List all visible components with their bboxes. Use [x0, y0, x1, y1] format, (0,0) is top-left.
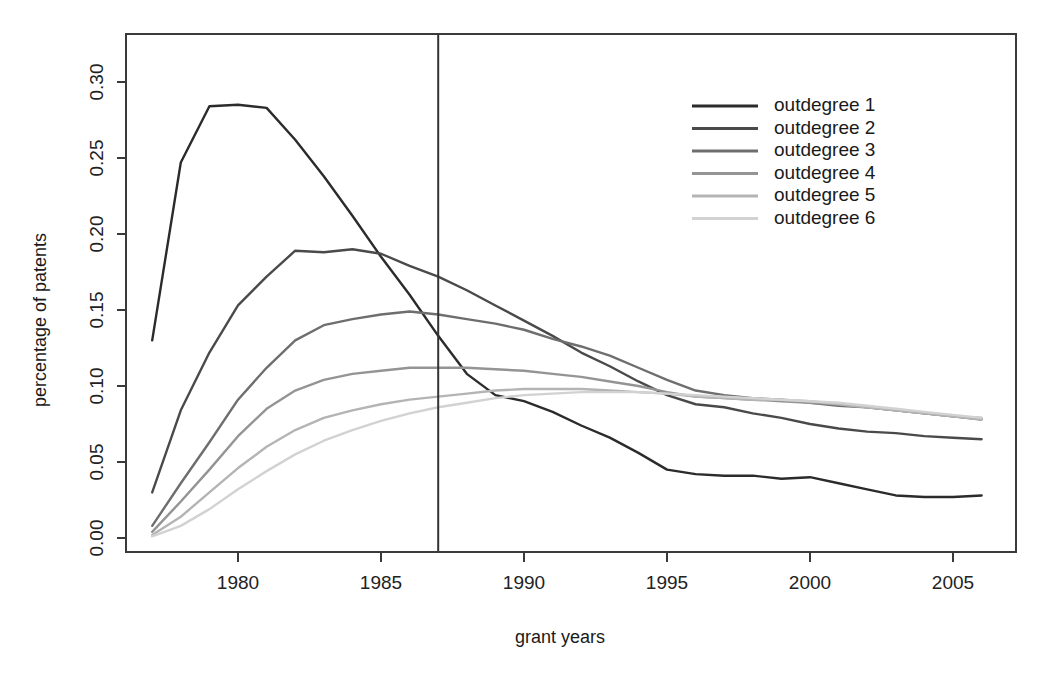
- y-tick-label: 0.10: [86, 368, 107, 405]
- series-line-outdegree-2: [152, 249, 981, 492]
- x-tick-label: 1990: [503, 572, 545, 593]
- x-tick-label: 1985: [360, 572, 402, 593]
- axes-group: [117, 34, 1016, 562]
- series-line-outdegree-6: [152, 392, 981, 536]
- legend-label-outdegree-5: outdegree 5: [774, 184, 875, 205]
- legend-label-outdegree-4: outdegree 4: [774, 162, 876, 183]
- x-tick-label: 2005: [932, 572, 974, 593]
- legend-label-outdegree-2: outdegree 2: [774, 117, 875, 138]
- y-tick-label: 0.25: [86, 140, 107, 177]
- legend-label-outdegree-1: outdegree 1: [774, 94, 875, 115]
- y-tick-label: 0.00: [86, 520, 107, 557]
- y-tick-label: 0.20: [86, 216, 107, 253]
- legend: outdegree 1outdegree 2outdegree 3outdegr…: [692, 94, 876, 228]
- x-tick-label: 1980: [217, 572, 259, 593]
- y-tick-label: 0.15: [86, 292, 107, 329]
- legend-label-outdegree-6: outdegree 6: [774, 207, 875, 228]
- figure-root: 0.000.050.100.150.200.250.30198019851990…: [0, 0, 1056, 678]
- line-chart: 0.000.050.100.150.200.250.30198019851990…: [0, 0, 1056, 678]
- x-axis-title: grant years: [515, 627, 605, 647]
- y-axis-title: percentage of patents: [30, 233, 50, 407]
- x-tick-label: 2000: [789, 572, 831, 593]
- legend-label-outdegree-3: outdegree 3: [774, 139, 875, 160]
- series-line-outdegree-5: [152, 389, 981, 535]
- y-tick-label: 0.05: [86, 444, 107, 481]
- y-tick-label: 0.30: [86, 64, 107, 101]
- x-tick-label: 1995: [646, 572, 688, 593]
